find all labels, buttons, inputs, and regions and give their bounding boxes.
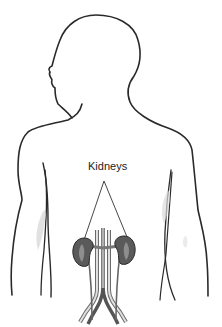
- right-lower-shading: [183, 236, 188, 248]
- left-torso-line: [43, 163, 51, 297]
- right-kidney: [115, 236, 135, 264]
- left-kidney: [73, 238, 93, 266]
- right-arm-inner-line: [160, 172, 172, 300]
- right-torso-line: [165, 170, 175, 300]
- kidneys-label: Kidneys: [88, 160, 127, 172]
- leader-line-left: [84, 181, 104, 240]
- leader-line-right: [104, 181, 127, 237]
